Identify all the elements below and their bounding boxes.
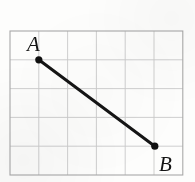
figure-canvas: A B	[0, 0, 195, 182]
point-a-label: A	[25, 32, 40, 56]
geometry-figure: A B	[0, 0, 195, 182]
point-a-dot	[35, 56, 42, 63]
point-b-label: B	[159, 152, 172, 176]
point-b-dot	[151, 143, 158, 150]
